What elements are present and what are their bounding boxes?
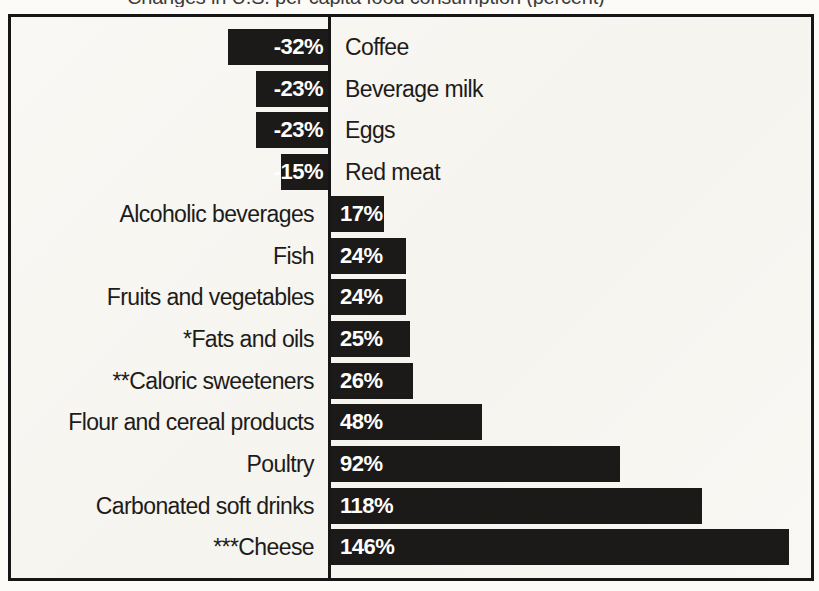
bar-value-label: 146%: [340, 534, 394, 560]
bar-category-label: Fruits and vegetables: [11, 279, 314, 315]
bar-value-label: 26%: [340, 368, 383, 394]
bar: -23%: [256, 71, 328, 107]
bar-value-label: 92%: [340, 451, 383, 477]
bar-category-label: Fish: [11, 238, 314, 274]
bar-category-label: Poultry: [11, 446, 314, 482]
bar-row: 146%***Cheese: [11, 529, 811, 565]
bar-category-label: **Caloric sweeteners: [11, 363, 314, 399]
bar-value-label: 24%: [340, 284, 383, 310]
chart-frame: -32%Coffee-23%Beverage milk-23%Eggs-15%R…: [8, 14, 814, 581]
bar-row: 17%Alcoholic beverages: [11, 196, 811, 232]
bar: 92%: [331, 446, 620, 482]
bar-category-label: Flour and cereal products: [11, 404, 314, 440]
bar-row: -32%Coffee: [11, 29, 811, 65]
bar: -32%: [228, 29, 328, 65]
chart-title-clipped: Changes in U.S. per capita food consumpt…: [127, 0, 727, 7]
bar-category-label: Beverage milk: [345, 71, 483, 107]
bar-category-label: ***Cheese: [11, 529, 314, 565]
bar-value-label: -23%: [274, 117, 323, 143]
bar-value-label: 17%: [340, 201, 383, 227]
bar-row: 24%Fruits and vegetables: [11, 279, 811, 315]
bar-rows: -32%Coffee-23%Beverage milk-23%Eggs-15%R…: [11, 17, 811, 578]
bar: 24%: [331, 238, 406, 274]
bar-row: -23%Eggs: [11, 112, 811, 148]
bar-category-label: Coffee: [345, 29, 409, 65]
bar-row: -23%Beverage milk: [11, 71, 811, 107]
bar-row: 24%Fish: [11, 238, 811, 274]
bar-value-label: -32%: [274, 34, 323, 60]
bar-value-label: 24%: [340, 243, 383, 269]
bar-value-label: 25%: [340, 326, 383, 352]
bar-row: 48%Flour and cereal products: [11, 404, 811, 440]
bar: 17%: [331, 196, 384, 232]
bar-row: 26%**Caloric sweeteners: [11, 363, 811, 399]
bar-category-label: *Fats and oils: [11, 321, 314, 357]
bar-row: 118%Carbonated soft drinks: [11, 488, 811, 524]
bar-category-label: Carbonated soft drinks: [11, 488, 314, 524]
bar: 146%: [331, 529, 789, 565]
bar-row: -15%Red meat: [11, 154, 811, 190]
bar: 24%: [331, 279, 406, 315]
bar-value-label: -23%: [274, 76, 323, 102]
bar: -23%: [256, 112, 328, 148]
scanned-chart-page: Changes in U.S. per capita food consumpt…: [0, 0, 819, 591]
bar-value-label: 48%: [340, 409, 383, 435]
bar-value-label: 118%: [340, 493, 393, 519]
bar-row: 92%Poultry: [11, 446, 811, 482]
bar: 118%: [331, 488, 702, 524]
chart-title-text: Changes in U.S. per capita food consumpt…: [127, 0, 727, 7]
bar-category-label: Alcoholic beverages: [11, 196, 314, 232]
bar: 48%: [331, 404, 482, 440]
bar-category-label: Red meat: [345, 154, 440, 190]
bar-row: 25%*Fats and oils: [11, 321, 811, 357]
bar: 26%: [331, 363, 413, 399]
bar-value-label: -15%: [274, 159, 323, 185]
bar: -15%: [281, 154, 328, 190]
bar-category-label: Eggs: [345, 112, 395, 148]
bar: 25%: [331, 321, 410, 357]
